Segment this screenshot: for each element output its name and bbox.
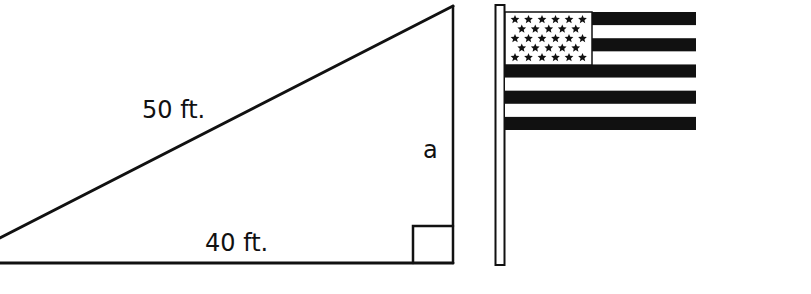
flagpole (496, 5, 505, 265)
height-label: a (423, 138, 438, 162)
flag-stripe (505, 91, 696, 104)
right-angle-marker (413, 226, 453, 263)
hypotenuse-label: 50 ft. (142, 98, 205, 122)
triangle-flagpole-diagram (0, 0, 811, 294)
base-label: 40 ft. (205, 231, 268, 255)
flag (505, 12, 696, 130)
flag-stripe (505, 117, 696, 130)
triangle-hypotenuse (0, 6, 453, 242)
right-triangle (0, 6, 453, 263)
flag-stripe (505, 64, 696, 77)
